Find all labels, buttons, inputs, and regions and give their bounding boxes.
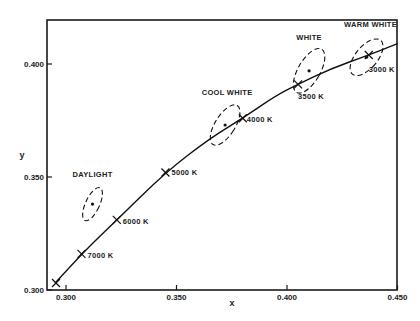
lamp-region-label: WHITE: [296, 33, 322, 42]
lamp-region-label: DAYLIGHT: [72, 170, 112, 179]
temperature-label: 6000 K: [123, 217, 149, 226]
planckian-locus-line: [55, 44, 398, 284]
x-tick-label: 0.450: [387, 293, 408, 302]
temperature-marker: 3000 K: [365, 51, 395, 74]
temperature-label: 3000 K: [369, 65, 395, 74]
y-tick-label: 0.300: [24, 286, 45, 295]
lamp-regions: DAYLIGHTCOOL WHITEWHITEWARM WHITE: [72, 20, 397, 223]
temperature-marker: 7000 K: [77, 250, 113, 260]
plot-frame: [47, 20, 397, 290]
x-tick-label: 0.400: [277, 293, 298, 302]
temperature-marker: 3500 K: [294, 80, 324, 101]
temperature-label: 4000 K: [247, 115, 273, 124]
temperature-marker: 6000 K: [113, 216, 149, 226]
y-axis-title: y: [19, 150, 24, 160]
y-tick-label: 0.400: [24, 60, 45, 69]
lamp-region-label: WARM WHITE: [344, 20, 397, 29]
temperature-label: 3500 K: [298, 92, 324, 101]
lamp-region: WHITE: [287, 33, 331, 98]
temperature-label: 5000 K: [171, 168, 197, 177]
lamp-region-label: COOL WHITE: [202, 88, 253, 97]
x-tick-label: 0.350: [166, 293, 187, 302]
x-axis-title: x: [229, 298, 234, 308]
lamp-region: DAYLIGHT: [72, 170, 112, 223]
chromaticity-chart: 0.3000.3500.4000.450 0.3000.3500.400 x y…: [0, 0, 420, 321]
temperature-marker: 4000 K: [239, 114, 273, 124]
lamp-region: COOL WHITE: [202, 88, 253, 150]
temperature-label: 7000 K: [87, 251, 113, 260]
temperature-markers: 7000 K6000 K5000 K4000 K3500 K3000 K: [52, 51, 395, 287]
y-tick-label: 0.350: [24, 173, 45, 182]
x-tick-label: 0.300: [56, 293, 77, 302]
